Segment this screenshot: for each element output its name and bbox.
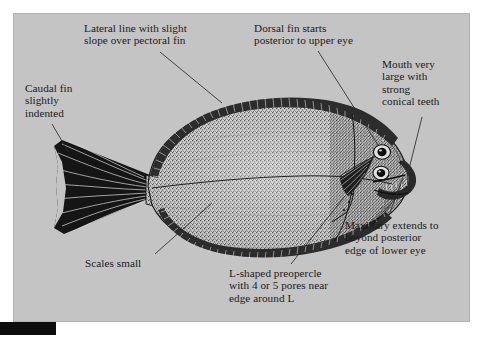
leader-dorsal-fin	[318, 51, 378, 145]
callout-dorsal-fin: Dorsal fin starts posterior to upper eye	[254, 22, 353, 47]
leader-scales	[155, 203, 212, 254]
callout-maxillary: Maxillary extends to beyond posterior ed…	[345, 219, 439, 256]
scale-bar	[0, 322, 56, 335]
leader-caudal-fin	[52, 124, 69, 153]
callout-caudal-fin: Caudal fin slightly indented	[25, 82, 72, 119]
leader-preopercle	[291, 196, 345, 264]
leader-maxillary	[389, 178, 403, 215]
figure-root: Lateral line with slight slope over pect…	[0, 0, 480, 338]
leader-lateral-line	[160, 52, 222, 103]
callout-preopercle: L-shaped preopercle with 4 or 5 pores ne…	[229, 267, 328, 304]
callout-mouth: Mouth very large with strong conical tee…	[382, 58, 440, 108]
callout-lateral-line: Lateral line with slight slope over pect…	[84, 22, 187, 47]
leader-mouth	[409, 117, 422, 169]
callout-scales: Scales small	[85, 257, 141, 269]
